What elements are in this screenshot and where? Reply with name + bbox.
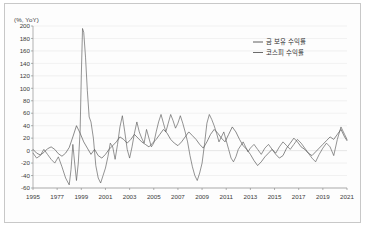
svg-text:-60: -60 — [21, 184, 31, 191]
svg-text:1977: 1977 — [50, 193, 64, 200]
svg-text:2009: 2009 — [195, 193, 209, 200]
legend-label-kospi: 코스피 수익률 — [266, 48, 304, 57]
svg-text:80: 80 — [23, 97, 30, 104]
svg-text:-40: -40 — [21, 172, 31, 179]
svg-text:2021: 2021 — [340, 193, 354, 200]
svg-text:200: 200 — [20, 22, 31, 29]
svg-text:2011: 2011 — [220, 193, 234, 200]
svg-text:2015: 2015 — [268, 193, 282, 200]
y-tick-labels: 200180160140120100806040200-20-40-60 — [20, 22, 31, 191]
svg-text:-20: -20 — [21, 159, 31, 166]
svg-text:120: 120 — [20, 72, 31, 79]
svg-text:2017: 2017 — [292, 193, 306, 200]
svg-text:60: 60 — [23, 109, 30, 116]
svg-text:100: 100 — [20, 85, 31, 92]
legend-label-gold: 금 보유 수익률 — [266, 38, 306, 46]
svg-text:2005: 2005 — [147, 193, 161, 200]
svg-text:1995: 1995 — [26, 193, 40, 200]
svg-text:40: 40 — [23, 122, 30, 129]
svg-text:2003: 2003 — [123, 193, 137, 200]
svg-text:2019: 2019 — [316, 193, 330, 200]
chart-svg: 200180160140120100806040200-20-40-60 199… — [0, 0, 366, 227]
svg-text:0: 0 — [27, 147, 31, 154]
x-tick-labels: 1995197719992001200320052007200920112013… — [26, 193, 354, 200]
svg-text:2013: 2013 — [244, 193, 258, 200]
chart-legend: 금 보유 수익률코스피 수익률 — [253, 38, 306, 57]
svg-text:20: 20 — [23, 134, 30, 141]
svg-text:2001: 2001 — [99, 193, 113, 200]
svg-text:160: 160 — [20, 47, 31, 54]
plot-area: 200180160140120100806040200-20-40-60 199… — [0, 0, 366, 227]
svg-text:2007: 2007 — [171, 193, 185, 200]
chart-figure: (%, YoY) 200180160140120100806040200-20-… — [0, 0, 366, 227]
svg-text:180: 180 — [20, 35, 31, 42]
svg-text:140: 140 — [20, 60, 31, 67]
svg-text:1999: 1999 — [74, 193, 88, 200]
